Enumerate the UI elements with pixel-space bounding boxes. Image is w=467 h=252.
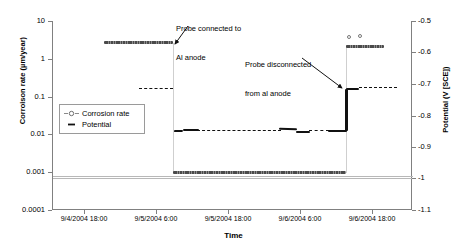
ytick-left-0 — [48, 21, 52, 22]
xtick-3 — [300, 210, 301, 214]
ytick-right-0 — [412, 21, 416, 22]
potential-segment-after-disconnection-dashed — [359, 87, 397, 88]
legend-item-potential: Potential — [64, 119, 140, 130]
legend-label-corrosion-rate: Corrosion rate — [82, 110, 130, 118]
dash-marker-icon — [64, 121, 79, 128]
ytick-label-left-0: 10 — [37, 17, 45, 25]
ytick-right-1 — [412, 52, 416, 53]
potential-segment-before-connection — [139, 88, 173, 89]
ytick-label-left-3: 0.01 — [30, 130, 45, 138]
ytick-label-right-1: -0.6 — [418, 48, 431, 56]
xtick-2 — [228, 210, 229, 214]
potential-noise-right-2 — [296, 131, 310, 133]
open-circle-marker-icon — [64, 110, 79, 117]
legend-label-potential: Potential — [82, 121, 111, 129]
ytick-right-3 — [412, 116, 416, 117]
gridline-0.001 — [53, 176, 413, 177]
ytick-left-5 — [48, 210, 52, 211]
ytick-label-left-5: 0.0001 — [22, 206, 45, 214]
xtick-label-4: 9/6/2004 18:00 — [322, 215, 422, 222]
rate-segment-after-disconnection — [346, 45, 384, 48]
potential-segment-after-disconnection — [346, 88, 359, 90]
rate-outlier-marker-2 — [358, 34, 362, 38]
annotation-probe-disconnected-line2: from al anode — [245, 89, 311, 99]
annotation-probe-connected: Probe connected to Al anode — [176, 5, 241, 81]
ytick-label-right-2: -0.7 — [418, 80, 431, 88]
ytick-right-2 — [412, 84, 416, 85]
rate-segment-before-connection — [104, 41, 173, 44]
gridline-minus-1v — [53, 178, 413, 179]
ytick-label-left-2: 0.1 — [35, 93, 45, 101]
rate-drop-at-connection — [173, 43, 174, 173]
ytick-label-right-4: -0.9 — [418, 143, 431, 151]
xtick-4 — [372, 210, 373, 214]
ytick-right-5 — [412, 178, 416, 179]
potential-segment-connected — [197, 130, 281, 131]
annotation-probe-disconnected: Probe disconnected from al anode — [245, 41, 311, 117]
ytick-label-right-3: -0.8 — [418, 112, 431, 120]
ytick-right-4 — [412, 147, 416, 148]
potential-rise-at-disconnection — [345, 89, 348, 131]
xtick-1 — [156, 210, 157, 214]
chart-figure: Corrosion rate Potential 10 1 0.1 0.01 0… — [0, 0, 467, 252]
ytick-right-6 — [412, 210, 416, 211]
ytick-label-left-1: 1 — [41, 55, 45, 63]
ytick-label-right-5: -1 — [418, 174, 425, 182]
potential-noise-left — [174, 130, 183, 132]
xtick-0 — [84, 210, 85, 214]
ytick-left-1 — [48, 59, 52, 60]
x-axis-title: Time — [0, 231, 467, 240]
y-axis-title-left: Corroison rate (µm/year) — [18, 11, 27, 151]
legend-item-corrosion-rate: Corrosion rate — [64, 108, 140, 119]
annotation-probe-connected-line2: Al anode — [176, 53, 241, 63]
ytick-label-right-0: -0.5 — [418, 17, 431, 25]
annotation-probe-connected-line1: Probe connected to — [176, 24, 241, 34]
y-axis-title-right: Potential (V [SCE]) — [441, 30, 450, 170]
potential-segment-connected-tail — [309, 130, 329, 131]
ytick-left-2 — [48, 97, 52, 98]
ytick-label-right-6: -1.1 — [418, 206, 431, 214]
ytick-left-4 — [48, 172, 52, 173]
rate-outlier-marker-1 — [347, 35, 351, 39]
legend: Corrosion rate Potential — [59, 104, 145, 134]
annotation-probe-disconnected-line1: Probe disconnected — [245, 60, 311, 70]
potential-noise-right — [279, 128, 297, 130]
ytick-left-3 — [48, 134, 52, 135]
ytick-label-left-4: 0.001 — [26, 168, 45, 176]
rate-segment-connected — [173, 171, 346, 174]
